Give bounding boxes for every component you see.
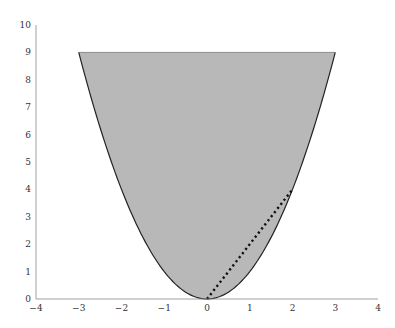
x-tick-label: −2: [115, 303, 128, 313]
y-tick-label: 8: [25, 75, 31, 85]
y-tick-label: 5: [25, 157, 31, 167]
x-tick-label: −3: [72, 303, 86, 313]
y-axis-ticks: 012345678910: [20, 20, 32, 304]
x-axis-ticks: −4−3−2−101234: [29, 303, 381, 313]
x-tick-label: 2: [290, 303, 296, 313]
y-tick-label: 2: [25, 239, 31, 249]
x-tick-label: −4: [29, 303, 43, 313]
y-tick-label: 6: [25, 130, 31, 140]
y-tick-label: 0: [25, 294, 31, 304]
x-tick-label: 0: [204, 303, 210, 313]
x-tick-label: 3: [332, 303, 338, 313]
y-tick-label: 4: [25, 184, 31, 194]
x-tick-label: 1: [247, 303, 253, 313]
y-tick-label: 9: [25, 47, 31, 57]
shaded-region: [79, 52, 336, 299]
y-tick-label: 3: [25, 212, 31, 222]
y-tick-label: 10: [20, 20, 32, 30]
x-tick-label: −1: [158, 303, 171, 313]
chart: −4−3−2−101234 012345678910: [0, 0, 395, 328]
y-tick-label: 7: [25, 102, 31, 112]
y-tick-label: 1: [25, 267, 31, 277]
plot-area: [79, 52, 336, 299]
x-tick-label: 4: [375, 303, 381, 313]
